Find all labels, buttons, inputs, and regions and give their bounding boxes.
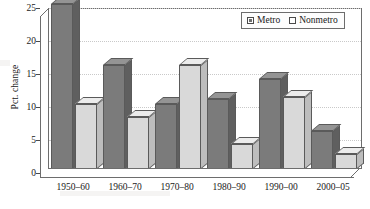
bar-nonmetro[interactable] — [75, 104, 97, 169]
bar-metro[interactable] — [207, 99, 229, 169]
bar-metro[interactable] — [259, 79, 281, 169]
bar-metro[interactable] — [155, 104, 177, 169]
hollow-square-icon — [289, 17, 296, 24]
x-axis-line-front — [40, 177, 354, 178]
bar-face — [207, 99, 229, 169]
x-tick-label: 1960–70 — [96, 182, 154, 192]
y-tick-label: 0 — [16, 169, 36, 178]
bar-face — [283, 97, 305, 169]
x-tick-label: 1970–80 — [148, 182, 206, 192]
x-tick-label: 1950–60 — [44, 182, 102, 192]
filled-square-icon — [247, 17, 254, 24]
bar-face — [231, 144, 253, 169]
y-tick-label: 5 — [16, 136, 36, 145]
bar-face — [155, 104, 177, 169]
legend-item-metro[interactable]: Metro — [247, 15, 280, 26]
x-axis-line-back — [48, 168, 362, 169]
chart-legend: Metro Nonmetro — [241, 12, 345, 29]
bar-nonmetro[interactable] — [231, 144, 253, 169]
x-tick-label: 1990–00 — [252, 182, 310, 192]
bar-nonmetro[interactable] — [179, 65, 201, 169]
bar-nonmetro[interactable] — [283, 97, 305, 169]
y-tick-label: 15 — [16, 70, 36, 79]
bar-metro[interactable] — [51, 4, 73, 169]
bar-face — [127, 117, 149, 169]
y-axis-ticks: 25 20 15 10 5 0 — [14, 0, 36, 209]
legend-label-metro: Metro — [257, 15, 280, 26]
bar-nonmetro[interactable] — [127, 117, 149, 169]
bar-face — [75, 104, 97, 169]
bar-metro[interactable] — [311, 131, 333, 169]
scan-artifact — [0, 60, 10, 66]
legend-item-nonmetro[interactable]: Nonmetro — [289, 15, 338, 26]
x-tick-label: 2000–05 — [304, 182, 362, 192]
bar-metro[interactable] — [103, 65, 125, 169]
bar-face — [51, 4, 73, 169]
floor-depth-connector-icon — [350, 166, 362, 178]
bar-face — [179, 65, 201, 169]
x-tick-label: 1980–90 — [200, 182, 258, 192]
y-tick-label: 20 — [16, 37, 36, 46]
bar-face — [259, 79, 281, 169]
bar-face — [103, 65, 125, 169]
plot-area — [40, 8, 362, 178]
x-axis-ticks: 1950–60 1960–70 1970–80 1980–90 1990–00 … — [40, 182, 362, 198]
bar-face — [311, 131, 333, 169]
y-tick-label: 25 — [16, 4, 36, 13]
bar-series-container — [40, 8, 362, 178]
bar-chart-figure: Pct. change 25 20 15 10 5 0 — [0, 0, 370, 209]
y-tick-label: 10 — [16, 103, 36, 112]
legend-label-nonmetro: Nonmetro — [299, 15, 338, 26]
